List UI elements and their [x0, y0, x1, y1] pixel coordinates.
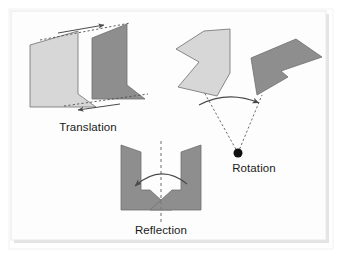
- label-reflection: Reflection: [135, 224, 187, 236]
- figure-root: Translation Rotation Reflection: [0, 0, 342, 261]
- label-translation: Translation: [59, 121, 117, 133]
- label-rotation: Rotation: [232, 162, 276, 174]
- transformations-diagram: Translation Rotation Reflection: [0, 0, 342, 261]
- rotation-pivot-point: [234, 149, 243, 158]
